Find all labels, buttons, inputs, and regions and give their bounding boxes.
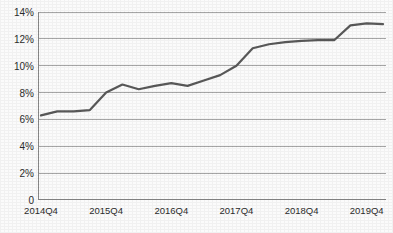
y-axis-tick-label: 14% [14,7,34,18]
y-axis-tick-label: 4% [20,141,34,152]
y-axis-tick-label: 0 [28,195,34,206]
y-axis-tick-label: 6% [20,114,34,125]
x-axis-tick-label: 2014Q4 [24,205,58,216]
y-axis-tick-label: 8% [20,87,34,98]
plot-area [38,12,386,200]
y-axis-tick-label: 12% [14,33,34,44]
x-axis-tick-label: 2015Q4 [89,205,123,216]
x-axis-tick-label: 2018Q4 [285,205,319,216]
x-axis-tick-label: 2019Q4 [350,205,384,216]
x-axis-tick-label: 2017Q4 [220,205,254,216]
x-axis-tick-label: 2016Q4 [154,205,188,216]
data-series-line [41,23,383,115]
chart-svg [38,12,386,200]
x-axis-label-group: 2014Q42015Q42016Q42017Q42018Q42019Q4 [38,205,386,225]
y-axis-label-group: 02%4%6%8%10%12%14% [0,0,34,233]
y-axis-tick-label: 2% [20,168,34,179]
y-axis-tick-label: 10% [14,60,34,71]
line-chart: 02%4%6%8%10%12%14% 2014Q42015Q42016Q4201… [0,0,393,233]
